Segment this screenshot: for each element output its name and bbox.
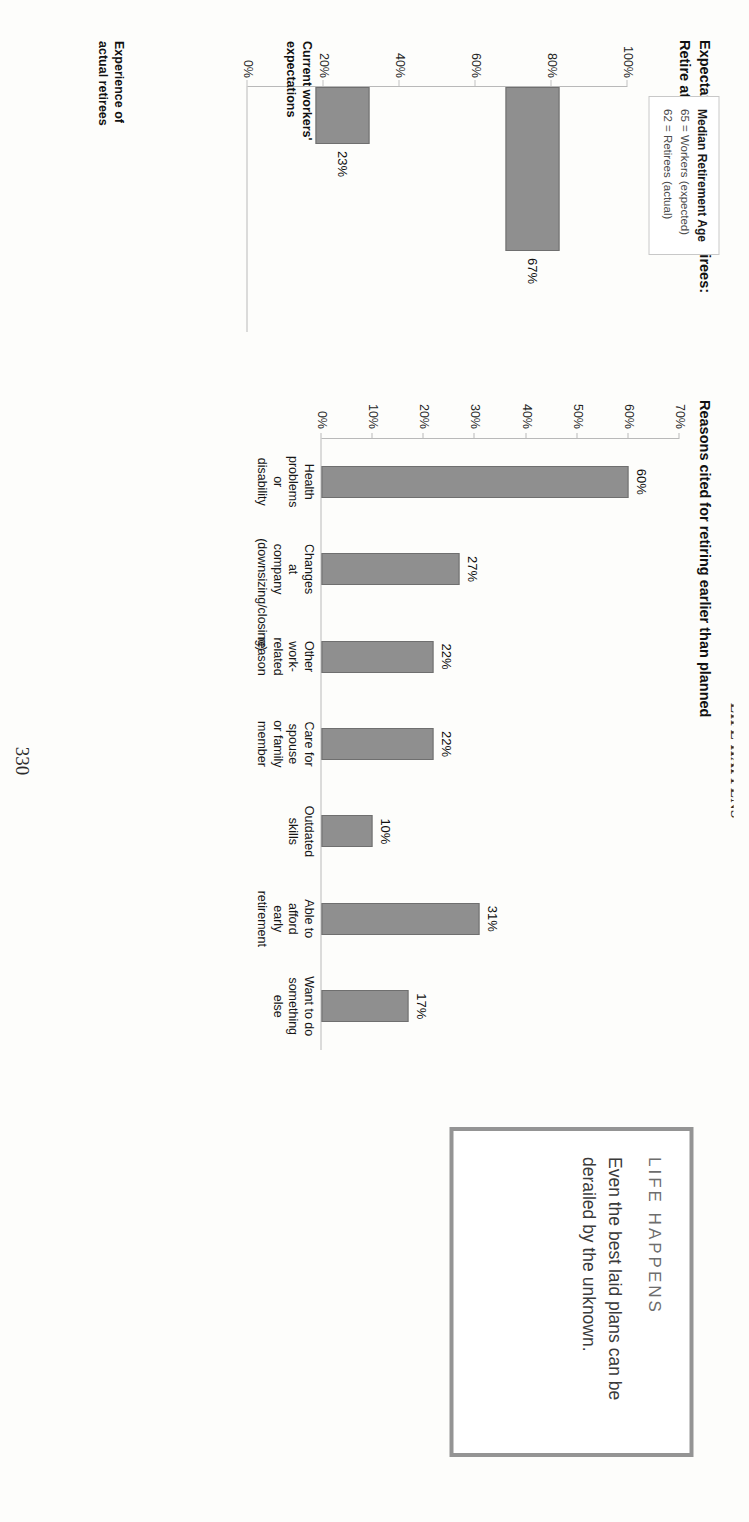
chart-expectations: Expectations of workers vs. retirees: Re… [13, 40, 713, 370]
chart-expectations-categories: Current workers' expectations Experience… [267, 41, 323, 286]
chart-reasons-bars: 60% 27% 22% 22% [321, 438, 679, 1050]
axis-tick-label: 70% [672, 404, 686, 429]
bar-want-to-do-something-else [321, 990, 408, 1022]
axis-tick-label: 30% [468, 404, 482, 429]
axis-tick-label: 10% [365, 404, 379, 429]
axis-tick-label: 40% [392, 53, 406, 78]
category-label: Changes at company (downsizing/closing) [253, 538, 316, 600]
bar-value-label: 31% [485, 906, 500, 932]
axis-tick-label: 20% [416, 404, 430, 429]
bar-value-label: 17% [413, 993, 428, 1019]
category-label: Outdated skills [253, 800, 316, 862]
callout-heading: LIFE HAPPENS [643, 1157, 663, 1427]
bar-current-workers [505, 87, 559, 251]
bar-care-for-spouse [321, 728, 434, 760]
axis-tick [550, 80, 551, 86]
note-line-workers: 65 = Workers (expected) [675, 109, 692, 242]
bar-group: 22% [321, 713, 679, 775]
bar-group: 22% [321, 626, 679, 688]
category-label: Want to do something else [253, 975, 316, 1037]
axis-tick [474, 80, 475, 86]
bar-group: 67% [472, 87, 592, 332]
bar-group: 60% [321, 451, 679, 513]
chart-reasons-plot: 0% 10% 20% 30% 40% 50% 60% 70% 60% [321, 438, 679, 1050]
bar-outdated-skills [321, 815, 372, 847]
bar-value-label: 10% [377, 818, 392, 844]
bar-value-label: 27% [464, 556, 479, 582]
axis-tick [626, 80, 627, 86]
scanned-page: LIFE HAPPENS Expectations of workers vs.… [0, 0, 749, 1522]
bar-other-work-related [321, 641, 434, 673]
bar-value-label: 23% [335, 151, 350, 177]
bar-value-label: 22% [439, 644, 454, 670]
axis-tick-label: 50% [570, 404, 584, 429]
bar-value-label: 22% [439, 731, 454, 757]
bar-health-problems [321, 466, 628, 498]
note-line-retirees: 62 = Retirees (actual) [658, 109, 675, 242]
axis-tick-label: 100% [620, 46, 634, 78]
category-label: Care for spouse or family member [253, 713, 316, 775]
axis-tick-label: 60% [621, 404, 635, 429]
bar-able-to-afford-early-retirement [321, 903, 480, 935]
axis-tick [398, 80, 399, 86]
chart-reasons: Reasons cited for retiring earlier than … [13, 400, 713, 1100]
bar-value-label: 60% [633, 469, 648, 495]
bar-value-label: 67% [525, 258, 540, 284]
axis-tick-label: 0% [240, 60, 254, 78]
axis-tick-label: 80% [544, 53, 558, 78]
category-label: Able to afford early retirement [253, 888, 316, 950]
category-label: Health problems or disability [253, 451, 316, 513]
axis-tick [246, 80, 247, 86]
category-label: Current workers' expectations [282, 41, 313, 141]
bar-group: 17% [321, 975, 679, 1037]
axis-tick-label: 60% [468, 53, 482, 78]
chart-reasons-title: Reasons cited for retiring earlier than … [693, 400, 713, 717]
category-label: Other work- related reason [253, 626, 316, 688]
running-head: LIFE HAPPENS [726, 0, 743, 1522]
category-label: Experience of actual retirees [94, 41, 125, 126]
median-retirement-age-note: Median Retirement Age 65 = Workers (expe… [648, 96, 719, 255]
callout-body: Even the best laid plans can be derailed… [575, 1157, 628, 1415]
chart-reasons-categories: Health problems or disability Changes at… [253, 438, 316, 1050]
note-title: Median Retirement Age [692, 109, 709, 242]
bar-group: 10% [321, 800, 679, 862]
callout-box: LIFE HAPPENS Even the best laid plans ca… [449, 1127, 693, 1457]
page-sheet: LIFE HAPPENS Expectations of workers vs.… [0, 0, 749, 1522]
axis-tick-label: 0% [314, 411, 328, 429]
page-number: 330 [10, 0, 32, 1522]
bar-group: 27% [321, 538, 679, 600]
axis-tick-label: 40% [519, 404, 533, 429]
bar-changes-at-company [321, 553, 459, 585]
bar-group: 31% [321, 888, 679, 950]
